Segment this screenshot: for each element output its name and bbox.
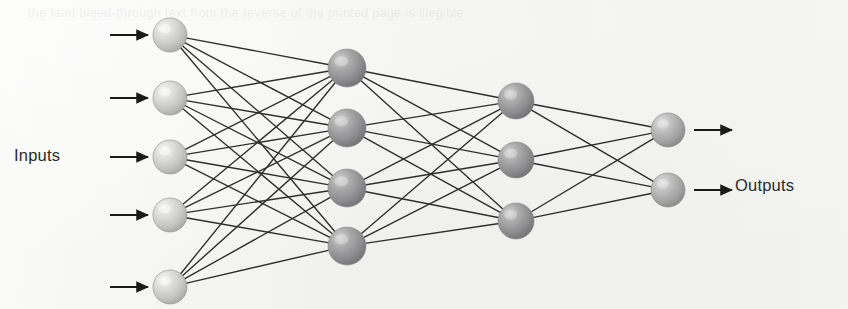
network-edge [531, 110, 655, 182]
node-specular-highlight [504, 149, 517, 159]
node-specular-highlight [334, 116, 348, 126]
node-specular-highlight [159, 24, 171, 33]
node-sphere [498, 203, 534, 239]
network-node[interactable] [153, 140, 187, 174]
network-edge [531, 138, 655, 212]
node-specular-highlight [504, 210, 517, 220]
node-sphere [328, 109, 366, 147]
node-specular-highlight [657, 179, 669, 188]
network-edge [363, 137, 501, 213]
network-node[interactable] [328, 109, 366, 147]
network-edge [361, 112, 503, 234]
network-edge [533, 193, 653, 217]
node-specular-highlight [334, 176, 348, 186]
node-sphere [153, 140, 187, 174]
node-sphere [498, 142, 534, 178]
node-sphere [328, 227, 366, 265]
network-node[interactable] [153, 18, 187, 52]
node-sphere [153, 198, 187, 232]
node-sphere [153, 270, 187, 304]
network-edge [186, 38, 330, 65]
network-canvas [0, 0, 848, 309]
node-sphere [498, 83, 534, 119]
network-node[interactable] [328, 49, 366, 87]
network-node[interactable] [651, 113, 685, 147]
network-edge [363, 109, 501, 180]
network-edge [186, 218, 330, 243]
network-node[interactable] [651, 173, 685, 207]
network-node[interactable] [328, 227, 366, 265]
node-group [153, 18, 685, 304]
network-node[interactable] [153, 81, 187, 115]
edge-group [180, 38, 654, 283]
node-sphere [153, 81, 187, 115]
network-edge [363, 168, 501, 238]
network-edge [184, 136, 330, 208]
network-edge [184, 42, 331, 119]
neural-network-diagram: the faint bleed-through text from the re… [0, 0, 848, 309]
network-node[interactable] [498, 83, 534, 119]
node-sphere [651, 173, 685, 207]
node-sphere [651, 113, 685, 147]
outputs-label: Outputs [735, 176, 794, 195]
node-specular-highlight [159, 87, 171, 96]
network-edge [365, 104, 499, 125]
node-specular-highlight [159, 146, 171, 155]
network-node[interactable] [498, 142, 534, 178]
network-edge [533, 104, 653, 127]
arrow-group [110, 35, 732, 287]
node-specular-highlight [657, 119, 669, 128]
node-sphere [153, 18, 187, 52]
network-node[interactable] [498, 203, 534, 239]
network-edge [533, 133, 653, 157]
inputs-label: Inputs [14, 146, 60, 165]
node-specular-highlight [159, 276, 171, 285]
network-node[interactable] [153, 270, 187, 304]
network-node[interactable] [328, 169, 366, 207]
node-specular-highlight [334, 56, 348, 66]
node-sphere [328, 49, 366, 87]
network-edge [365, 71, 500, 97]
network-node[interactable] [153, 198, 187, 232]
network-edge [182, 80, 333, 205]
node-sphere [328, 169, 366, 207]
network-edge [186, 71, 329, 95]
node-specular-highlight [334, 234, 348, 244]
node-specular-highlight [159, 204, 171, 213]
node-specular-highlight [504, 90, 517, 100]
network-edge [182, 45, 333, 176]
